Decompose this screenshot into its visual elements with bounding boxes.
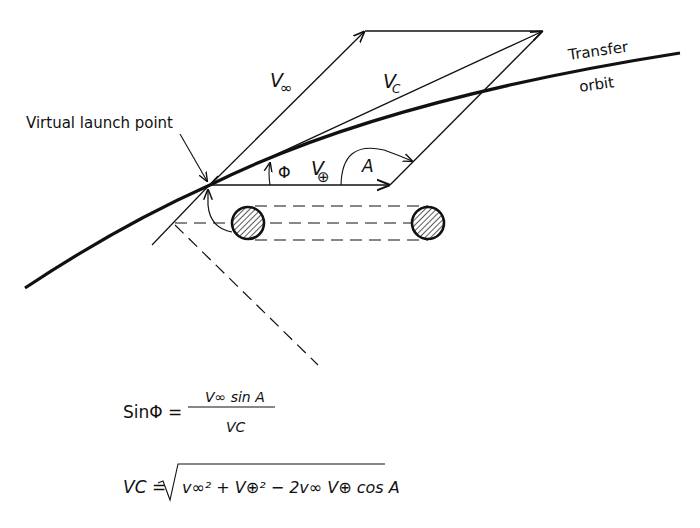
- earth-circle-left: [232, 207, 264, 239]
- equation-sin-phi: SinΦ = V∞ sin A VC: [123, 389, 275, 435]
- v-c-vector: [210, 32, 541, 185]
- svg-text:SinΦ =: SinΦ =: [123, 402, 182, 422]
- earth-circle-right: [412, 207, 444, 239]
- rotation-arrow: [208, 190, 232, 232]
- phi-angle-arc: [269, 163, 270, 185]
- virtual-launch-point-label: Virtual launch point: [26, 114, 173, 132]
- v-c-label: V C: [383, 70, 401, 96]
- svg-text:v∞² + V⊕² − 2v∞ V⊕ cos A: v∞² + V⊕² − 2v∞ V⊕ cos A: [182, 478, 400, 497]
- svg-text:∞: ∞: [280, 79, 293, 97]
- angle-a-arc: [341, 148, 412, 185]
- v-earth-label: V ⊕: [311, 157, 330, 186]
- launch-geometry-diagram: Virtual launch point Transfer orbit V ∞ …: [0, 0, 700, 528]
- v-infinity-label: V ∞: [270, 69, 293, 97]
- angle-a-label: A: [361, 156, 374, 176]
- phi-label: Φ: [278, 163, 291, 182]
- svg-text:VC: VC: [226, 419, 246, 435]
- svg-text:V∞ sin A: V∞ sin A: [205, 389, 265, 405]
- svg-text:⊕: ⊕: [317, 168, 330, 186]
- svg-text:C: C: [392, 82, 401, 96]
- transfer-label: Transfer: [566, 38, 630, 64]
- launch-point-pointer: [180, 134, 207, 181]
- svg-text:VC =: VC =: [123, 477, 166, 497]
- dashed-diagonal: [175, 225, 318, 365]
- tangent-line: [152, 176, 218, 245]
- orbit-label: orbit: [578, 73, 615, 96]
- equation-v-c: VC = v∞² + V⊕² − 2v∞ V⊕ cos A: [123, 464, 400, 500]
